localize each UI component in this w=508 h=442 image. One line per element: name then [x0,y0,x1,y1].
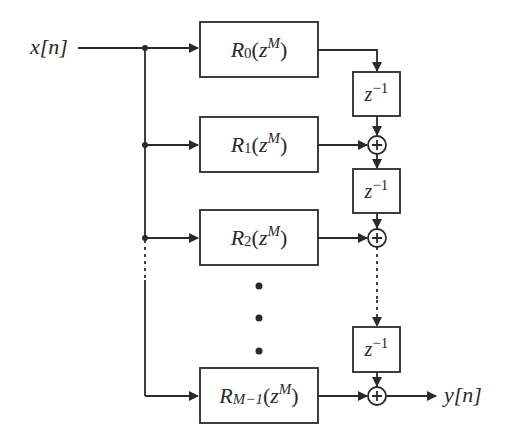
delay-label-1: z−1 [353,72,400,116]
ellipsis-dot [256,315,263,322]
ellipsis-dot [256,348,263,355]
filter-label-r1: R1(zM) [200,117,318,172]
delay-label-2: z−1 [353,169,400,213]
ellipsis-dot [256,283,263,290]
output-label: y[n] [444,382,482,408]
filter-label-rm1: RM−1(zM) [200,368,318,423]
input-label: x[n] [30,34,68,60]
delay-label-3: z−1 [353,327,400,372]
filter-label-r0: R0(zM) [200,22,318,77]
filter-label-r2: R2(zM) [200,210,318,265]
